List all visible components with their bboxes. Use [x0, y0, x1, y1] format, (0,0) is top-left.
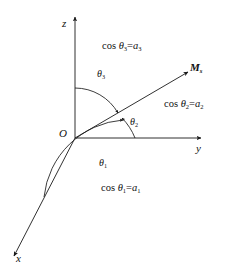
theta-2-subscript: 2 [135, 121, 138, 128]
cos-theta2-subscript: 2 [186, 103, 189, 110]
z-axis-label: z [62, 18, 66, 29]
cos-theta2-rhs-subscript: 2 [200, 103, 203, 110]
y-axis-label: y [196, 143, 201, 154]
cos-theta1-fn: cos [101, 182, 118, 193]
cos-theta2-fn: cos [164, 98, 181, 109]
x-axis [14, 138, 75, 256]
x-axis-label: x [16, 253, 21, 264]
theta-1-label: θ1 [99, 158, 107, 168]
cos-theta3-fn: cos [102, 40, 119, 51]
theta-3-subscript: 3 [102, 73, 105, 80]
origin-label: O [59, 128, 67, 139]
direction-cosine-figure: z y x O Ms θ3 θ2 θ1 cos θ3=a3 cos θ2=a2 … [0, 0, 225, 271]
theta-3-label: θ3 [97, 69, 105, 79]
cos-theta3-subscript: 3 [124, 45, 127, 52]
theta-2-label: θ2 [130, 117, 138, 127]
vector-label-text: M [190, 61, 200, 73]
equation-cos-theta3: cos θ3=a3 [102, 41, 141, 52]
cos-theta1-rhs-subscript: 1 [137, 187, 140, 194]
equation-cos-theta1: cos θ1=a1 [101, 183, 140, 194]
vector-label: Ms [190, 62, 202, 73]
cos-theta3-rhs-subscript: 3 [138, 45, 141, 52]
theta-1-subscript: 1 [104, 162, 107, 169]
cos-theta1-subscript: 1 [123, 187, 126, 194]
equation-cos-theta2: cos θ2=a2 [164, 99, 203, 110]
theta-3-arc [75, 88, 118, 113]
